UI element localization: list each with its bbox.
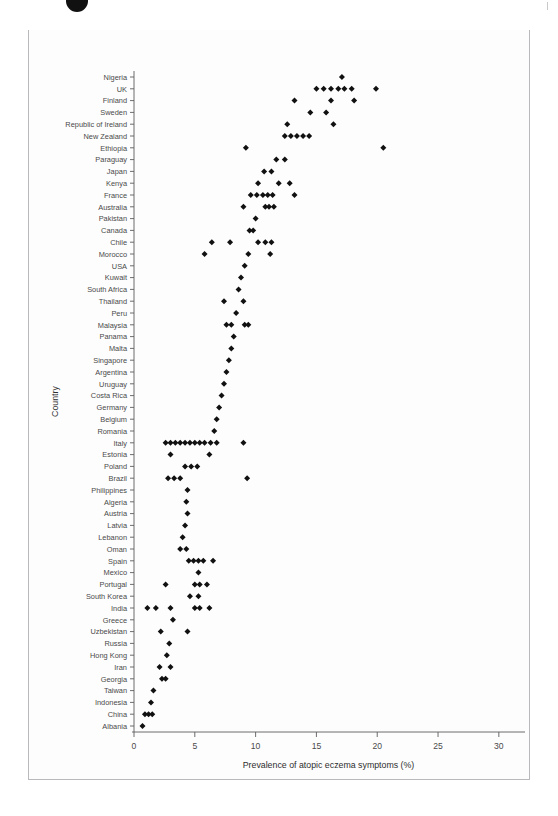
data-point: [268, 168, 274, 174]
y-tick-label: Latvia: [107, 521, 128, 530]
y-tick-label: Singapore: [93, 356, 127, 365]
data-point: [287, 180, 293, 186]
data-point: [323, 109, 329, 115]
data-point: [216, 404, 222, 410]
data-point: [349, 86, 355, 92]
data-point: [254, 192, 260, 198]
data-point: [240, 204, 246, 210]
data-point: [245, 251, 251, 257]
y-tick-label: Finland: [103, 96, 127, 105]
data-point: [284, 121, 290, 127]
y-tick-label: Morocco: [99, 250, 127, 259]
data-point: [206, 605, 212, 611]
y-tick-label: Russia: [104, 639, 127, 648]
y-tick-label: China: [108, 710, 128, 719]
data-point: [195, 593, 201, 599]
data-point: [228, 345, 234, 351]
y-tick-label: Iran: [114, 663, 127, 672]
y-tick-label: Nigeria: [104, 73, 128, 82]
data-point: [185, 629, 191, 635]
data-point: [282, 133, 288, 139]
y-tick-label: Belgium: [100, 415, 127, 424]
y-tick-label: Oman: [107, 545, 127, 554]
data-point: [248, 192, 254, 198]
data-point: [167, 664, 173, 670]
y-tick-label: Ethiopia: [100, 144, 128, 153]
data-point: [335, 86, 341, 92]
data-point: [167, 605, 173, 611]
y-tick-label: Malaysia: [98, 321, 128, 330]
y-tick-label: Georgia: [101, 675, 128, 684]
y-tick-label: Costa Rica: [91, 391, 128, 400]
data-point: [206, 452, 212, 458]
y-tick-label: South Korea: [86, 592, 128, 601]
y-tick-label: Estonia: [102, 450, 128, 459]
data-point: [307, 109, 313, 115]
data-point: [238, 275, 244, 281]
data-point: [221, 381, 227, 387]
data-point: [221, 298, 227, 304]
data-point: [228, 322, 234, 328]
data-point: [214, 416, 220, 422]
data-point: [339, 74, 345, 80]
x-tick-label: 20: [372, 741, 382, 751]
y-tick-label: Algeria: [104, 498, 128, 507]
data-point: [182, 522, 188, 528]
data-point: [261, 168, 267, 174]
data-point: [227, 239, 233, 245]
y-tick-label: France: [104, 191, 127, 200]
y-tick-label: India: [111, 604, 128, 613]
data-point: [208, 440, 214, 446]
data-point: [180, 534, 186, 540]
data-point: [236, 286, 242, 292]
y-tick-label: Sweden: [100, 108, 127, 117]
data-point: [273, 157, 279, 163]
y-tick-label: Greece: [103, 616, 127, 625]
data-point: [209, 239, 215, 245]
y-tick-label: Uzbekistan: [90, 627, 127, 636]
data-point: [245, 322, 251, 328]
y-tick-label: Romania: [97, 427, 127, 436]
data-point: [244, 475, 250, 481]
data-point: [328, 98, 334, 104]
data-point: [144, 605, 150, 611]
data-point: [200, 558, 206, 564]
y-tick-label: Lebanon: [98, 533, 127, 542]
data-point: [219, 393, 225, 399]
data-point: [240, 298, 246, 304]
data-point: [253, 216, 259, 222]
x-tick-label: 0: [132, 741, 137, 751]
y-tick-label: Uruguay: [99, 380, 127, 389]
data-point: [182, 463, 188, 469]
y-tick-label: Paraguay: [95, 155, 127, 164]
y-tick-label: Pakistan: [99, 214, 127, 223]
data-point: [202, 440, 208, 446]
data-point: [250, 227, 256, 233]
data-point: [223, 369, 229, 375]
data-point: [262, 239, 268, 245]
y-tick-label: Mexico: [104, 568, 127, 577]
data-point: [211, 428, 217, 434]
data-point: [185, 487, 191, 493]
y-tick-label: Brazil: [109, 474, 128, 483]
y-tick-label: Japan: [107, 167, 127, 176]
data-point: [243, 145, 249, 151]
y-tick-label: Poland: [104, 462, 127, 471]
data-point: [171, 475, 177, 481]
y-tick-label: Canada: [101, 226, 128, 235]
data-point: [163, 676, 169, 682]
data-point: [255, 180, 261, 186]
y-tick-label: Taiwan: [104, 686, 127, 695]
data-point: [167, 452, 173, 458]
y-tick-label: Panama: [99, 332, 127, 341]
y-tick-label: Republic of Ireland: [65, 120, 127, 129]
data-point: [150, 688, 156, 694]
y-tick-label: Kenya: [106, 179, 128, 188]
scatter-plot: NigeriaUKFinlandSwedenRepublic of Irelan…: [28, 52, 530, 780]
y-tick-label: Austria: [104, 509, 128, 518]
y-tick-label: Argentina: [95, 368, 128, 377]
y-tick-label: USA: [112, 262, 127, 271]
data-point: [214, 440, 220, 446]
data-point: [165, 475, 171, 481]
data-point: [288, 133, 294, 139]
